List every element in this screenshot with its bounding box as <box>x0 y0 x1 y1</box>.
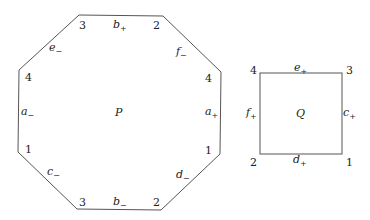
octagon-vertex-left-top: 4 <box>25 71 32 84</box>
octagon-vertex-right-top: 4 <box>205 72 212 85</box>
square-label-q: Q <box>296 107 305 120</box>
square-vertex-bottom-right: 1 <box>346 156 353 169</box>
octagon-vertex-top-right: 2 <box>153 19 160 32</box>
octagon-edge-bottom-right: d− <box>176 168 190 183</box>
octagon-edge-top: b+ <box>113 18 127 33</box>
octagon-vertex-bottom-left: 3 <box>79 196 86 209</box>
diagram-canvas: 3 2 4 1 2 3 1 4 b+ f− a+ d− b− c− a− e− … <box>0 0 370 220</box>
square-edge-right: c+ <box>343 106 356 121</box>
square-edge-left: f+ <box>245 106 257 121</box>
octagon-edge-top-right: f− <box>175 45 187 60</box>
octagon-edge-bottom-left: c− <box>47 165 60 180</box>
octagon-edge-left: a− <box>21 105 34 120</box>
octagon-edge-top-left: e− <box>49 41 62 56</box>
square-edge-bottom: d+ <box>293 153 307 168</box>
octagon-vertex-bottom-right: 2 <box>153 196 160 209</box>
square-vertex-bottom-left: 2 <box>250 156 257 169</box>
octagon-vertex-right-bottom: 1 <box>205 144 212 157</box>
octagon-vertex-left-bottom: 1 <box>25 143 32 156</box>
square-vertex-top-left: 4 <box>250 64 257 77</box>
octagon-edge-right: a+ <box>205 105 218 120</box>
square-edge-top: e+ <box>294 61 307 76</box>
octagon-label-p: P <box>114 106 123 119</box>
octagon-vertex-top-left: 3 <box>79 19 86 32</box>
octagon-edge-bottom: b− <box>113 195 127 210</box>
square-vertex-top-right: 3 <box>346 64 353 77</box>
